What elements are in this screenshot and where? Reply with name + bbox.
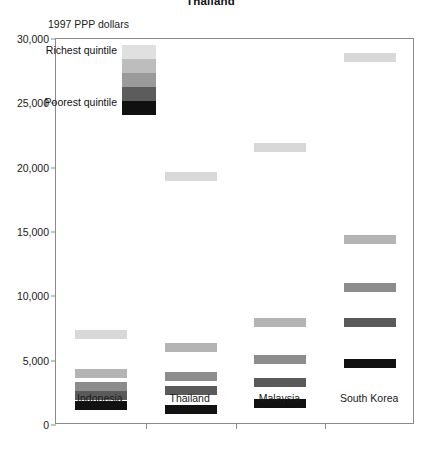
quintile-bar	[344, 53, 396, 62]
quintile-bar	[165, 405, 217, 414]
y-tick-mark	[51, 39, 56, 40]
y-tick-mark	[51, 360, 56, 361]
quintile-bar	[344, 359, 396, 368]
quintile-bar	[254, 378, 306, 387]
x-tick-mark	[146, 423, 147, 429]
legend-band	[122, 87, 156, 101]
plot-area: 05,00010,00015,00020,00025,00030,000 Ric…	[55, 38, 414, 424]
legend-label-richest: Richest quintile	[46, 44, 120, 56]
y-tick-mark	[51, 232, 56, 233]
quintile-bar	[254, 355, 306, 364]
legend-band	[122, 45, 156, 59]
x-axis-label-malaysia: Malaysia	[259, 392, 300, 404]
legend-band	[122, 73, 156, 87]
quintile-bar	[254, 318, 306, 327]
y-axis-unit-label: 1997 PPP dollars	[48, 18, 129, 30]
y-tick-mark	[51, 167, 56, 168]
y-tick-mark	[51, 296, 56, 297]
quintile-bar	[75, 382, 127, 391]
x-tick-mark	[325, 423, 326, 429]
quintile-bar	[165, 372, 217, 381]
chart-container: Thailand 1997 PPP dollars 05,00010,00015…	[0, 0, 421, 454]
legend-gradient-swatch	[122, 45, 156, 115]
x-axis-label-thailand: Thailand	[169, 392, 209, 404]
legend-band	[122, 101, 156, 115]
x-axis-label-indonesia: Indonesia	[77, 392, 123, 404]
legend-band	[122, 59, 156, 73]
y-tick-mark	[51, 425, 56, 426]
quintile-bar	[165, 172, 217, 181]
x-tick-mark	[236, 423, 237, 429]
quintile-bar	[344, 283, 396, 292]
chart-title: Thailand	[0, 0, 421, 7]
quintile-bar	[165, 343, 217, 352]
x-axis-label-south-korea: South Korea	[340, 392, 398, 404]
quintile-bar	[344, 235, 396, 244]
quintile-bar	[344, 318, 396, 327]
quintile-bar	[75, 369, 127, 378]
quintile-bar	[75, 330, 127, 339]
legend-label-poorest: Poorest quintile	[45, 96, 120, 108]
quintile-bar	[254, 143, 306, 152]
